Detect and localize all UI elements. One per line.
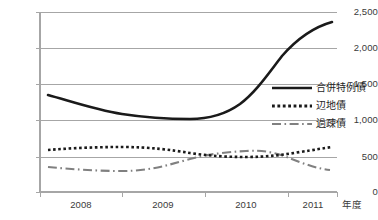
- x-axis-tick-label: 2008: [61, 199, 101, 210]
- x-axis-ticks: [40, 192, 337, 197]
- series-line-gappeitokureisai: [48, 22, 332, 119]
- x-axis-title: 年度: [342, 199, 362, 210]
- gridlines: [40, 12, 337, 157]
- legend-item-henchisai: 辺地債: [316, 100, 346, 112]
- x-axis-tick-label: 2009: [143, 199, 183, 210]
- series-line-henchisai: [48, 147, 332, 157]
- x-axis-tick-label: 2010: [226, 199, 266, 210]
- legend-item-kasosai: 過疎債: [316, 118, 346, 130]
- chart-container: 2,500 2,000 1,500 1,000 500 0: [0, 0, 378, 220]
- x-axis-tick-label: 2011: [293, 199, 333, 210]
- legend-item-gappeitokureisai: 合併特例債: [316, 82, 366, 94]
